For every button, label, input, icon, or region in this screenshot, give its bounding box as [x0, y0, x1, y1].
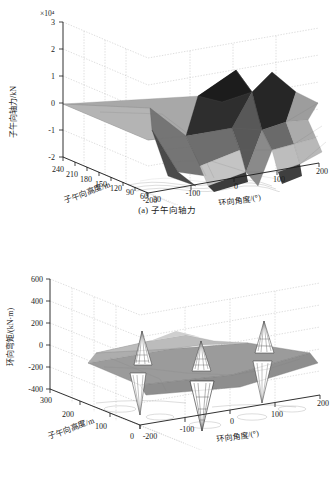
z-axis-b: 600 400 200 0 -200 -400 [28, 275, 50, 394]
y-tick-b-3: 100 [271, 410, 283, 419]
x-tick-b-0: 300 [40, 396, 52, 405]
y-tick-b-1: -100 [180, 425, 195, 434]
x-tick-a-5: 90 [126, 188, 134, 197]
z-tick-a-2: 1 [51, 72, 55, 81]
z-tick-a-1: 2 [51, 45, 55, 54]
x-tick-b-3: 0 [130, 432, 134, 441]
y-tick-a-1: -100 [186, 189, 201, 198]
z-tick-b-0: 600 [31, 275, 43, 284]
x-tick-b-1: 200 [62, 410, 74, 419]
z-axis-title-a: 子午向轴力/kN [8, 86, 18, 138]
z-axis-exponent-a: ×10⁴ [40, 9, 55, 18]
z-tick-b-1: 400 [31, 297, 43, 306]
x-tick-a-2: 180 [80, 175, 92, 184]
z-tick-a-5: -2 [48, 153, 55, 162]
z-tick-a-3: 0 [51, 99, 55, 108]
y-tick-a-3: 100 [273, 175, 285, 184]
plot-b-svg: 600 400 200 0 -200 -400 环向弯矩/(kN·m) [0, 245, 335, 450]
y-tick-b-0: -200 [143, 432, 158, 441]
y-tick-b-4: 200 [317, 399, 329, 408]
panel-b: 600 400 200 0 -200 -400 环向弯矩/(kN·m) [0, 245, 335, 491]
figure-container: 3 2 1 0 -1 -2 ×10⁴ 子午向轴力/kN [0, 0, 335, 491]
z-axis-a: 3 2 1 0 -1 -2 [48, 18, 63, 162]
z-tick-a-4: -1 [48, 126, 55, 135]
y-axis-title-b: 环向角度/(°) [216, 428, 260, 445]
panel-a: 3 2 1 0 -1 -2 ×10⁴ 子午向轴力/kN [0, 0, 335, 245]
caption-a: (a) 子午向轴力 [0, 203, 335, 215]
x-tick-a-1: 210 [66, 170, 78, 179]
y-tick-b-2: 0 [230, 417, 234, 426]
z-axis-title-b: 环向弯矩/(kN·m) [5, 308, 15, 367]
surface-plot-b: 600 400 200 0 -200 -400 环向弯矩/(kN·m) [0, 245, 335, 450]
z-tick-a-0: 3 [51, 18, 55, 27]
z-tick-b-3: 0 [39, 341, 43, 350]
y-tick-a-4: 200 [316, 167, 328, 176]
surface-plot-a: 3 2 1 0 -1 -2 ×10⁴ 子午向轴力/kN [0, 0, 335, 205]
z-tick-b-5: -400 [28, 385, 43, 394]
x-tick-b-2: 100 [95, 422, 107, 431]
y-tick-a-2: 0 [234, 182, 238, 191]
z-tick-b-4: -200 [28, 363, 43, 372]
z-tick-b-2: 200 [31, 319, 43, 328]
x-tick-a-0: 240 [52, 165, 64, 174]
x-tick-a-4: 120 [110, 184, 122, 193]
plot-a-svg: 3 2 1 0 -1 -2 ×10⁴ 子午向轴力/kN [0, 0, 335, 205]
